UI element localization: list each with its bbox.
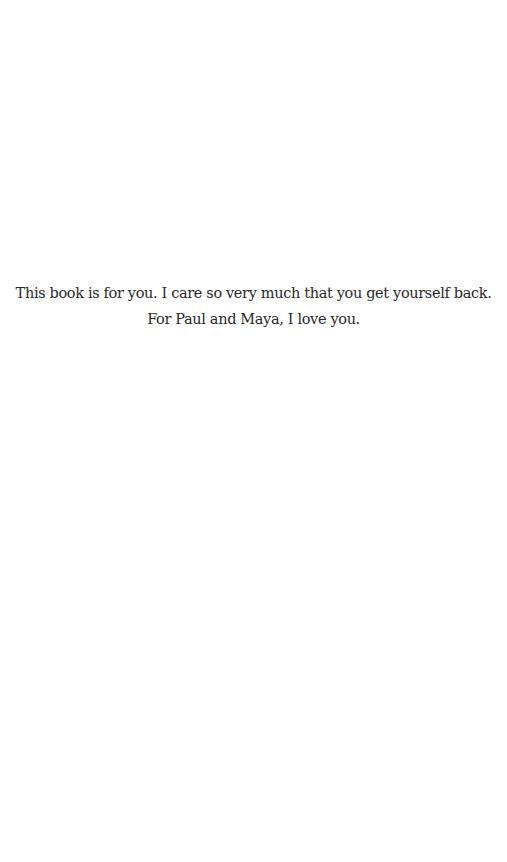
dedication-line-2: For Paul and Maya, I love you. (0, 306, 507, 332)
book-page: This book is for you. I care so very muc… (0, 0, 507, 862)
dedication-block: This book is for you. I care so very muc… (0, 280, 507, 332)
dedication-line-1: This book is for you. I care so very muc… (0, 280, 507, 306)
